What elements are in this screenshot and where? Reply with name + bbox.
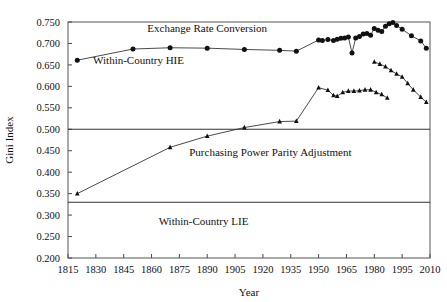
x-tick-label: 1980 <box>364 264 385 275</box>
data-point-marker <box>242 47 247 52</box>
x-axis-title: Year <box>239 286 260 298</box>
data-point-marker <box>294 49 299 54</box>
x-tick-label: 1860 <box>141 264 162 275</box>
data-point-marker <box>394 71 399 76</box>
y-tick-label: 0.350 <box>36 188 60 199</box>
data-point-marker <box>205 46 210 51</box>
y-axis-tick-labels: 0.2000.2500.3000.3500.4000.4500.5000.550… <box>36 17 60 264</box>
x-tick-label: 1995 <box>392 264 413 275</box>
data-point-marker <box>346 88 351 93</box>
data-point-marker <box>346 35 351 40</box>
data-point-marker <box>418 38 423 43</box>
data-point-marker <box>400 27 405 32</box>
x-tick-label: 1905 <box>225 264 246 275</box>
x-tick-label: 1950 <box>308 264 329 275</box>
y-tick-label: 0.450 <box>36 145 60 156</box>
data-point-marker <box>372 59 377 64</box>
data-point-marker <box>385 95 390 100</box>
data-point-marker <box>368 33 373 38</box>
data-point-marker <box>363 87 368 92</box>
data-point-marker <box>130 47 135 52</box>
series-1 <box>372 59 429 104</box>
series-2 <box>75 85 390 196</box>
data-point-marker <box>389 68 394 73</box>
data-point-marker <box>379 29 384 34</box>
y-tick-label: 0.550 <box>36 102 60 113</box>
y-tick-label: 0.750 <box>36 17 60 28</box>
y-tick-label: 0.600 <box>36 81 60 92</box>
data-point-marker <box>409 33 414 38</box>
data-point-marker <box>75 58 80 63</box>
y-tick-label: 0.650 <box>36 60 60 71</box>
y-axis-title: Gini Index <box>3 116 15 164</box>
x-tick-label: 1965 <box>336 264 357 275</box>
series-line-path <box>77 88 387 194</box>
x-tick-label: 1920 <box>252 264 273 275</box>
data-series-layer <box>75 20 429 196</box>
chart-annotation-label: Exchange Rate Conversion <box>147 22 267 34</box>
x-tick-label: 1830 <box>85 264 106 275</box>
x-axis-tick-labels: 1815183018451860187518901905192019351950… <box>58 264 441 275</box>
y-tick-label: 0.400 <box>36 167 60 178</box>
y-tick-label: 0.200 <box>36 253 60 264</box>
data-point-marker <box>325 37 330 42</box>
x-tick-label: 1935 <box>280 264 301 275</box>
y-tick-label: 0.250 <box>36 231 60 242</box>
chart-figure: 0.2000.2500.3000.3500.4000.4500.5000.550… <box>0 0 447 302</box>
x-tick-label: 1875 <box>169 264 190 275</box>
y-tick-label: 0.300 <box>36 210 60 221</box>
chart-annotations: Exchange Rate ConversionWithin-Country H… <box>93 22 351 227</box>
y-tick-label: 0.500 <box>36 124 60 135</box>
chart-annotation-label: Within-Country LIE <box>159 215 249 227</box>
data-point-marker <box>424 46 429 51</box>
data-point-marker <box>316 85 321 90</box>
data-point-marker <box>277 48 282 53</box>
data-point-marker <box>368 87 373 92</box>
chart-annotation-label: Purchasing Power Parity Adjustment <box>189 146 351 158</box>
data-point-marker <box>320 38 325 43</box>
reference-lines <box>68 129 430 202</box>
data-point-marker <box>394 23 399 28</box>
gini-index-line-chart: 0.2000.2500.3000.3500.4000.4500.5000.550… <box>0 0 447 302</box>
x-tick-label: 1890 <box>197 264 218 275</box>
data-point-marker <box>168 45 173 50</box>
x-tick-label: 2010 <box>420 264 441 275</box>
x-tick-label: 1845 <box>113 264 134 275</box>
x-tick-label: 1815 <box>58 264 79 275</box>
data-point-marker <box>350 50 355 55</box>
chart-annotation-label: Within-Country HIE <box>93 54 184 66</box>
y-tick-label: 0.700 <box>36 38 60 49</box>
